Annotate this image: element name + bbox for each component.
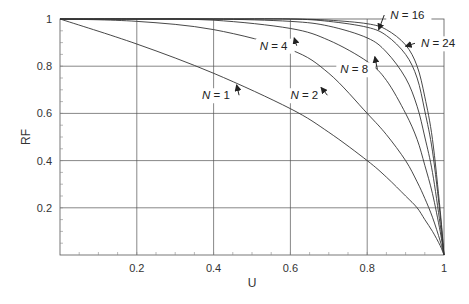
series-annotation-label: N = 16 xyxy=(390,9,424,21)
annotation-arrow-icon xyxy=(406,43,415,46)
x-axis-label: U xyxy=(248,276,257,290)
data-series xyxy=(60,19,444,255)
series-line-n1 xyxy=(60,19,444,255)
grid-lines xyxy=(60,19,444,255)
y-tick-label: 0.4 xyxy=(37,155,52,167)
x-tick-label: 0.6 xyxy=(283,262,298,274)
x-tick-label: 0.2 xyxy=(129,262,144,274)
series-line-n16 xyxy=(60,19,444,255)
series-line-n8 xyxy=(60,19,444,255)
series-line-n24 xyxy=(60,19,444,255)
y-tick-label: 0.8 xyxy=(37,60,52,72)
y-tick-label: 0.2 xyxy=(37,202,52,214)
plot-frame xyxy=(60,19,444,255)
tick-labels: 0.20.40.60.810.20.40.60.81 xyxy=(37,13,447,274)
x-tick-label: 1 xyxy=(441,262,447,274)
series-annotation-label: N = 8 xyxy=(340,63,368,75)
y-tick-label: 0.6 xyxy=(37,107,52,119)
y-axis-label: RF xyxy=(19,129,33,145)
rf-vs-u-line-chart: N = 1N = 2N = 4N = 8N = 16N = 24 0.20.40… xyxy=(0,0,469,304)
series-annotation-label: N = 1 xyxy=(202,89,230,101)
series-annotation-label: N = 24 xyxy=(421,37,456,49)
series-annotation-label: N = 2 xyxy=(290,89,318,101)
series-line-n4 xyxy=(60,19,444,255)
y-tick-label: 1 xyxy=(46,13,52,25)
x-tick-label: 0.4 xyxy=(206,262,221,274)
x-tick-label: 0.8 xyxy=(360,262,375,274)
series-line-n2 xyxy=(60,19,444,255)
series-annotation-label: N = 4 xyxy=(260,40,288,52)
